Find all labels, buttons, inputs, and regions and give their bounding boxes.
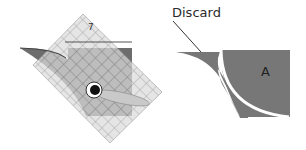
- left-panel: [20, 14, 162, 143]
- discard-label: Discard: [172, 5, 221, 20]
- right-panel: [173, 21, 290, 118]
- piece-a-label: A: [261, 64, 270, 79]
- diagram: Discard A 7: [0, 0, 306, 150]
- ruler: [33, 14, 162, 143]
- ruler-mark-label: 7: [88, 22, 94, 32]
- callout-leader: [173, 21, 201, 52]
